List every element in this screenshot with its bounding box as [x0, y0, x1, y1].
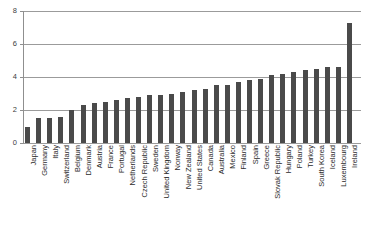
- y-tick-mark-2: [20, 110, 24, 111]
- gridline-8: [24, 11, 361, 12]
- bar-chart: JapanGermanyItalySwitzerlandBelgiumDenma…: [0, 0, 369, 228]
- x-tick-label: Slovak Republic: [274, 145, 281, 199]
- bar: [169, 94, 174, 144]
- x-tick-label: Spain: [252, 145, 259, 164]
- bar: [180, 92, 185, 143]
- bar: [136, 97, 141, 143]
- bar: [92, 103, 97, 143]
- bar: [81, 105, 86, 143]
- x-tick-label: Iceland: [329, 145, 336, 169]
- chart-title-remnant: [24, 0, 224, 2]
- bar: [225, 85, 230, 143]
- bar: [303, 70, 308, 143]
- x-axis-labels: JapanGermanyItalySwitzerlandBelgiumDenma…: [24, 145, 361, 228]
- bar: [147, 95, 152, 143]
- x-tick-label: Italy: [52, 145, 59, 159]
- x-tick-label: Mexico: [229, 145, 236, 169]
- y-tick-mark-6: [20, 44, 24, 45]
- bar: [25, 127, 30, 144]
- x-tick-label: Austria: [96, 145, 103, 168]
- x-tick-label: Poland: [296, 145, 303, 168]
- x-tick-label: Czech Republic: [141, 145, 148, 198]
- bar: [114, 100, 119, 143]
- y-tick-label-0: 0: [3, 139, 17, 147]
- bar: [36, 118, 41, 143]
- bar: [247, 80, 252, 143]
- x-tick-label: Netherlands: [129, 145, 136, 185]
- x-tick-label: Belgium: [74, 145, 81, 172]
- x-tick-label: Luxembourg: [340, 145, 347, 187]
- y-tick-label-6: 6: [3, 40, 17, 48]
- bar: [314, 69, 319, 143]
- y-tick-mark-0: [20, 143, 24, 144]
- bar: [258, 79, 263, 143]
- bar: [125, 98, 130, 143]
- bar: [47, 118, 52, 143]
- bar: [192, 90, 197, 143]
- bar: [203, 89, 208, 143]
- bar: [291, 72, 296, 143]
- bar: [325, 67, 330, 143]
- y-tick-mark-8: [20, 11, 24, 12]
- x-tick-label: Switzerland: [63, 145, 70, 184]
- x-tick-label: Germany: [41, 145, 48, 176]
- x-tick-label: Ireland: [351, 145, 358, 168]
- x-tick-label: Sweden: [152, 145, 159, 172]
- bar: [336, 67, 341, 143]
- x-tick-label: Australia: [218, 145, 225, 174]
- y-tick-label-4: 4: [3, 73, 17, 81]
- x-tick-label: United States: [196, 145, 203, 190]
- y-tick-label-8: 8: [3, 7, 17, 15]
- x-tick-label: United Kingdom: [163, 145, 170, 198]
- bar: [269, 75, 274, 143]
- x-tick-label: Greece: [263, 145, 270, 170]
- bar: [347, 23, 352, 143]
- bar: [69, 110, 74, 143]
- plot-area: [24, 11, 361, 143]
- bar: [214, 85, 219, 143]
- gridline-4: [24, 77, 361, 78]
- x-tick-label: Canada: [207, 145, 214, 171]
- x-tick-label: Portugal: [118, 145, 125, 173]
- x-tick-label: France: [107, 145, 114, 168]
- bar: [280, 74, 285, 143]
- bar: [58, 117, 63, 143]
- bar: [158, 95, 163, 143]
- bar: [236, 82, 241, 143]
- x-tick-label: Denmark: [85, 145, 92, 175]
- x-tick-label: South Korea: [318, 145, 325, 187]
- gridline-6: [24, 44, 361, 45]
- x-tick-label: New Zealand: [185, 145, 192, 189]
- x-tick-label: Hungary: [285, 145, 292, 173]
- x-tick-label: Norway: [174, 145, 181, 170]
- x-tick-label: Turkey: [307, 145, 314, 168]
- y-tick-label-2: 2: [3, 106, 17, 114]
- bar: [103, 102, 108, 143]
- x-tick-label: Japan: [30, 145, 37, 165]
- x-tick-label: Finland: [240, 145, 247, 170]
- y-tick-mark-4: [20, 77, 24, 78]
